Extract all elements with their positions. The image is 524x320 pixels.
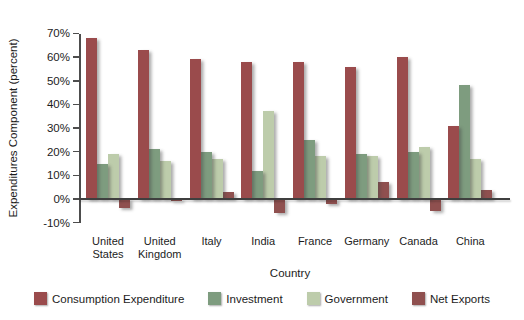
category-label: China [442, 235, 498, 248]
bar-consumption-expenditure [293, 62, 304, 199]
category-label: United Kingdom [132, 235, 188, 261]
y-tick-mark [73, 175, 79, 177]
legend-swatch [208, 292, 221, 305]
bar-government [212, 159, 223, 199]
y-tick-label: 70% [34, 27, 70, 39]
legend-label: Government [325, 293, 388, 305]
x-axis-line [79, 198, 510, 200]
legend-label: Investment [226, 293, 282, 305]
bar-investment [459, 85, 470, 199]
y-tick-label: 20% [34, 146, 70, 158]
bar-government [315, 156, 326, 199]
bar-consumption-expenditure [86, 38, 97, 199]
legend-item: Net Exports [412, 292, 490, 305]
y-tick-label: 40% [34, 98, 70, 110]
legend: Consumption ExpenditureInvestmentGovernm… [0, 292, 524, 305]
category-label: Canada [391, 235, 447, 248]
bar-government [160, 161, 171, 199]
bar-consumption-expenditure [138, 50, 149, 199]
bar-consumption-expenditure [397, 57, 408, 199]
y-tick-mark [73, 80, 79, 82]
y-tick-label: 10% [34, 169, 70, 181]
bar-consumption-expenditure [241, 62, 252, 199]
bar-government [470, 159, 481, 199]
category-label: Italy [184, 235, 240, 248]
legend-item: Government [307, 292, 388, 305]
bar-government [108, 154, 119, 199]
bar-consumption-expenditure [345, 67, 356, 199]
bar-investment [201, 152, 212, 199]
legend-label: Net Exports [430, 293, 490, 305]
y-tick-mark [73, 104, 79, 106]
y-tick-label: 30% [34, 122, 70, 134]
y-tick-label: -10% [34, 217, 70, 229]
y-axis-line [79, 34, 81, 223]
legend-label: Consumption Expenditure [52, 293, 184, 305]
bar-net-exports [430, 199, 441, 211]
category-label: Germany [339, 235, 395, 248]
bar-government [419, 147, 430, 199]
y-axis-title: Expenditures Component (percent) [7, 39, 19, 218]
y-tick-label: 50% [34, 75, 70, 87]
bar-investment [408, 152, 419, 199]
bar-consumption-expenditure [448, 126, 459, 199]
bar-investment [97, 164, 108, 199]
y-tick-mark [73, 127, 79, 129]
y-tick-mark [73, 151, 79, 153]
legend-swatch [307, 292, 320, 305]
y-tick-label: 0% [34, 193, 70, 205]
bar-net-exports [274, 199, 285, 213]
bar-investment [149, 149, 160, 199]
y-tick-mark [73, 56, 79, 58]
bar-government [263, 111, 274, 199]
grouped-bar-chart: Expenditures Component (percent) Country… [0, 0, 524, 320]
x-axis-title: Country [82, 267, 498, 279]
bar-net-exports [378, 182, 389, 199]
y-tick-mark [73, 33, 79, 35]
bar-consumption-expenditure [190, 59, 201, 199]
y-tick-mark [73, 222, 79, 224]
legend-swatch [412, 292, 425, 305]
bar-government [367, 156, 378, 199]
category-label: France [287, 235, 343, 248]
bar-net-exports [119, 199, 130, 208]
bar-investment [252, 171, 263, 199]
y-tick-label: 60% [34, 51, 70, 63]
legend-swatch [34, 292, 47, 305]
category-label: United States [80, 235, 136, 261]
legend-item: Consumption Expenditure [34, 292, 184, 305]
category-label: India [235, 235, 291, 248]
legend-item: Investment [208, 292, 282, 305]
bar-investment [356, 154, 367, 199]
bar-investment [304, 140, 315, 199]
